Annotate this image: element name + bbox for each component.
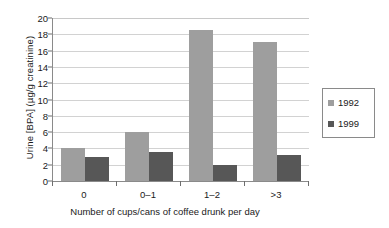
bar-group — [117, 18, 181, 181]
legend-label: 1999 — [338, 119, 359, 128]
y-axis-tick-label: 16 — [37, 46, 48, 55]
bar-groups — [53, 18, 309, 181]
y-axis-tick-labels: 02468101214161820 — [22, 13, 48, 185]
bar-group — [245, 18, 309, 181]
legend-label: 1992 — [338, 98, 359, 107]
x-axis-tick-mark — [116, 181, 117, 186]
x-axis-title: Number of cups/cans of coffee drunk per … — [0, 206, 330, 217]
y-axis-tick-label: 14 — [37, 62, 48, 71]
x-axis-tick-label: 1–2 — [180, 189, 244, 200]
legend-swatch-icon — [328, 100, 334, 106]
x-axis-tick-label: 0–1 — [116, 189, 180, 200]
x-axis-tick-mark — [180, 181, 181, 186]
y-axis-tick-label: 18 — [37, 30, 48, 39]
x-axis-tick-marks — [52, 181, 308, 187]
x-axis-tick-labels: 00–11–2>3 — [52, 189, 308, 200]
legend: 19921999 — [322, 88, 375, 138]
x-axis-tick-mark — [52, 181, 53, 186]
legend-item-1999[interactable]: 1999 — [328, 119, 374, 128]
bar-chart-figure: Urine [BPA] (µg/g creatinine) 0246810121… — [0, 0, 389, 228]
bar-group — [53, 18, 117, 181]
legend-item-1992[interactable]: 1992 — [328, 98, 374, 107]
y-axis-tick-label: 10 — [37, 95, 48, 104]
x-axis-tick-label: >3 — [244, 189, 308, 200]
plot-area — [52, 18, 309, 182]
bar-1992-12[interactable] — [189, 30, 213, 181]
bar-1992-0[interactable] — [61, 148, 85, 181]
y-axis-tick-label: 20 — [37, 14, 48, 23]
bar-group — [181, 18, 245, 181]
x-axis-tick-label: 0 — [52, 189, 116, 200]
bar-1999-01[interactable] — [149, 152, 173, 181]
bar-1992-3[interactable] — [253, 42, 277, 181]
legend-swatch-icon — [328, 121, 334, 127]
x-axis-tick-mark — [244, 181, 245, 186]
bar-1992-01[interactable] — [125, 132, 149, 181]
x-axis-tick-mark — [308, 181, 309, 186]
bar-1999-0[interactable] — [85, 157, 109, 181]
y-axis-tick-label: 12 — [37, 79, 48, 88]
bar-1999-3[interactable] — [277, 155, 301, 181]
bar-1999-12[interactable] — [213, 165, 237, 181]
